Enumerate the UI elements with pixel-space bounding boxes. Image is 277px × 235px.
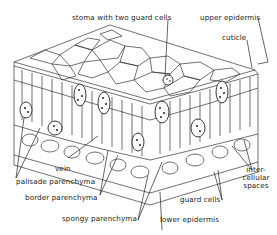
label-guard-cells: guard cells (180, 196, 220, 203)
label-lower-epidermis: lower epidermis (160, 216, 219, 223)
label-upper-epidermis: upper epidermis (200, 14, 260, 21)
label-vein: vein (55, 165, 71, 172)
label-intercellular-spaces: inter- cellular spaces (236, 166, 276, 190)
label-border-parenchyma: border parenchyma (25, 194, 98, 201)
label-palisade-parenchyma: palisade parenchyma (16, 178, 95, 185)
label-stoma: stoma with two guard cells (72, 14, 171, 21)
label-cuticle: cuticle (222, 34, 246, 41)
label-intercellular-line1: inter- (236, 166, 276, 173)
label-intercellular-line3: spaces (236, 182, 276, 189)
label-intercellular-line2: cellular (236, 174, 276, 181)
label-spongy-parenchyma: spongy parenchyma (62, 215, 137, 222)
